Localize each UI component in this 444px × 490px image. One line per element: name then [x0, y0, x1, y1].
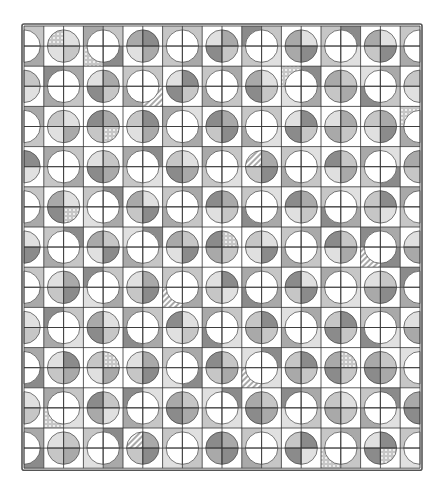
quilt-block: [301, 127, 321, 147]
quilt-block: [64, 408, 84, 428]
quilt-block: [64, 46, 84, 66]
quilt-block: [321, 46, 341, 66]
quilt-block: [163, 287, 183, 307]
quilt-block: [361, 26, 381, 46]
quilt-block: [242, 127, 262, 147]
quilt-block: [281, 86, 301, 106]
quilt-block: [123, 328, 143, 348]
quilt-block: [163, 86, 183, 106]
quilt-block: [163, 46, 183, 66]
quilt-block: [321, 328, 341, 348]
quilt-block: [242, 66, 262, 86]
quilt-block: [163, 348, 183, 368]
quilt-block: [103, 187, 123, 207]
quilt-block: [143, 227, 163, 247]
quilt-block: [83, 388, 103, 408]
quilt-block: [242, 207, 262, 227]
quilt-block: [222, 106, 242, 126]
quilt-block: [163, 328, 183, 348]
quilt-block: [301, 408, 321, 428]
quilt-block: [182, 66, 202, 86]
quilt-block: [24, 147, 44, 167]
quilt-block: [380, 127, 400, 147]
quilt-block: [321, 448, 341, 468]
quilt-block: [301, 328, 321, 348]
quilt-grid-lines: [24, 26, 420, 468]
quilt-block: [24, 267, 44, 287]
quilt-block: [341, 106, 361, 126]
quilt-block: [380, 408, 400, 428]
quilt-block: [301, 187, 321, 207]
quilt-block: [123, 267, 143, 287]
quilt-block: [380, 26, 400, 46]
quilt-block: [361, 247, 381, 267]
quilt-block: [341, 408, 361, 428]
quilt-block: [64, 167, 84, 187]
quilt-block: [341, 428, 361, 448]
quilt-block: [123, 207, 143, 227]
quilt-block: [182, 368, 202, 388]
quilt-block: [64, 187, 84, 207]
quilt-block: [301, 448, 321, 468]
quilt-block: [123, 448, 143, 468]
quilt-block: [182, 408, 202, 428]
quilt-block: [202, 26, 222, 46]
quilt-block: [24, 408, 44, 428]
quilt-block: [182, 307, 202, 327]
quilt-block: [222, 247, 242, 267]
quilt-block: [182, 348, 202, 368]
quilt-block: [64, 307, 84, 327]
quilt-block: [281, 428, 301, 448]
quilt-block: [341, 187, 361, 207]
quilt-block: [281, 408, 301, 428]
quilt-block: [321, 307, 341, 327]
quilt-block: [44, 328, 64, 348]
quilt-block: [242, 428, 262, 448]
quilt-block: [24, 127, 44, 147]
quilt-block: [380, 428, 400, 448]
quilt-block: [222, 287, 242, 307]
quilt-block: [103, 86, 123, 106]
quilt-block: [321, 127, 341, 147]
quilt-block: [242, 247, 262, 267]
quilt-block: [83, 448, 103, 468]
quilt-block: [361, 46, 381, 66]
quilt-block: [361, 368, 381, 388]
quilt-block: [281, 46, 301, 66]
quilt-block: [380, 66, 400, 86]
quilt-block: [202, 106, 222, 126]
quilt-block: [321, 408, 341, 428]
quilt-block: [24, 227, 44, 247]
quilt-block: [64, 86, 84, 106]
quilt-block: [182, 106, 202, 126]
quilt-block: [262, 408, 282, 428]
quilt-block: [341, 267, 361, 287]
quilt-block: [64, 428, 84, 448]
quilt-block: [400, 408, 420, 428]
quilt-block: [321, 167, 341, 187]
quilt-block: [301, 428, 321, 448]
quilt-block: [341, 388, 361, 408]
quilt-block: [361, 207, 381, 227]
quilt-block: [380, 267, 400, 287]
quilt-block: [202, 368, 222, 388]
quilt-block: [400, 167, 420, 187]
quilt-block: [64, 66, 84, 86]
quilt-block: [182, 287, 202, 307]
quilt-block: [182, 267, 202, 287]
quilt-block: [44, 307, 64, 327]
quilt-block: [182, 207, 202, 227]
quilt-block: [341, 328, 361, 348]
quilt-block: [222, 66, 242, 86]
quilt-block: [341, 66, 361, 86]
quilt-block: [341, 247, 361, 267]
quilt-block: [143, 267, 163, 287]
quilt-block: [103, 207, 123, 227]
quilt-block: [64, 328, 84, 348]
quilt-block: [380, 448, 400, 468]
quilt-block: [83, 66, 103, 86]
quilt-block: [24, 46, 44, 66]
quilt-block: [24, 307, 44, 327]
quilt-block: [262, 448, 282, 468]
quilt-block: [242, 388, 262, 408]
